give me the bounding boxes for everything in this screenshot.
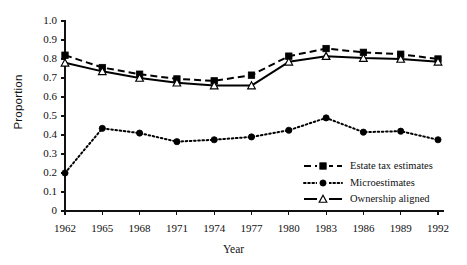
y-tick-label: 0.5 bbox=[23, 110, 57, 121]
x-axis-ticks bbox=[65, 211, 438, 215]
y-tick-label: 0.6 bbox=[23, 91, 57, 102]
legend-marker-icon bbox=[303, 177, 343, 189]
y-tick-label: 0.3 bbox=[23, 148, 57, 159]
x-tick-label: 1977 bbox=[232, 222, 272, 234]
legend-label: Estate tax estimates bbox=[350, 158, 433, 175]
y-tick-label: 1.0 bbox=[23, 15, 57, 26]
x-tick-label: 1989 bbox=[381, 222, 421, 234]
y-tick-label: 0.4 bbox=[23, 129, 57, 140]
x-tick-label: 1968 bbox=[120, 222, 160, 234]
legend-label: Microestimates bbox=[350, 175, 415, 192]
y-tick-label: 0.8 bbox=[23, 53, 57, 64]
legend-label: Ownership aligned bbox=[350, 191, 430, 208]
y-tick-label: 0.9 bbox=[23, 34, 57, 45]
y-tick-label: 0.1 bbox=[23, 186, 57, 197]
legend-marker-icon bbox=[303, 160, 343, 172]
x-tick-label: 1965 bbox=[82, 222, 122, 234]
legend-item-ownership-aligned: Ownership aligned bbox=[303, 191, 433, 208]
legend-marker-icon bbox=[303, 193, 343, 205]
x-tick-label: 1983 bbox=[306, 222, 346, 234]
legend-item-microestimates: Microestimates bbox=[303, 175, 433, 192]
y-tick-label: 0.2 bbox=[23, 167, 57, 178]
series-estate-tax-estimates bbox=[62, 45, 441, 84]
chart-legend: Estate tax estimatesMicroestimatesOwners… bbox=[303, 158, 433, 208]
x-tick-label: 1986 bbox=[343, 222, 383, 234]
x-tick-label: 1980 bbox=[269, 222, 309, 234]
x-tick-label: 1971 bbox=[157, 222, 197, 234]
y-tick-label: 0.7 bbox=[23, 72, 57, 83]
x-tick-label: 1962 bbox=[45, 222, 85, 234]
x-tick-label: 1974 bbox=[194, 222, 234, 234]
legend-item-estate-tax-estimates: Estate tax estimates bbox=[303, 158, 433, 175]
y-tick-label: 0 bbox=[23, 205, 57, 216]
y-axis-ticks bbox=[61, 21, 65, 211]
chart-figure: Proportion Year 00.10.20.30.40.50.60.70.… bbox=[0, 0, 467, 265]
x-tick-label: 1992 bbox=[418, 222, 458, 234]
